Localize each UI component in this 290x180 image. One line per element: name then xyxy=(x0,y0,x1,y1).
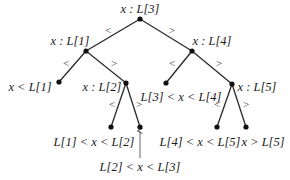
l1-label: x : L[1] xyxy=(50,34,90,48)
edge-label-l1-greater: > xyxy=(111,57,117,69)
leaf-label-lt-l1: x < L[1] xyxy=(7,80,51,94)
leaf-l3-l4 xyxy=(163,80,168,85)
edge-l1-l2 xyxy=(86,51,126,83)
leaf-lt-l1 xyxy=(56,79,61,84)
node-root xyxy=(137,16,142,21)
leaf-gt-l5 xyxy=(243,124,248,129)
leaf-label-l3-l4: L[3] < x < L[4] xyxy=(140,90,222,104)
l2-label: x : L[2] xyxy=(82,80,122,94)
node-l2 xyxy=(123,80,128,85)
edge-label-l4-greater: > xyxy=(216,57,222,69)
root-label: x : L[3] xyxy=(120,2,160,16)
edge-label-root-greater: > xyxy=(169,24,175,36)
leaf-label-l4-l5: L[4] < x < L[5] xyxy=(159,135,241,149)
leaf-label-l1-l2: L[1] < x < L[2] xyxy=(53,135,135,149)
edge-label-l4-less: < xyxy=(169,57,175,69)
l5-label: x : L[5] xyxy=(237,80,277,94)
node-l1 xyxy=(83,48,88,53)
edge-l4-l5 xyxy=(192,51,232,84)
edge-label-l2-greater: > xyxy=(136,98,142,110)
node-l4 xyxy=(189,48,194,53)
decision-tree-diagram: x : L[3] x : L[1] x : L[4] x : L[2] x : … xyxy=(0,0,290,180)
node-l5 xyxy=(229,81,234,86)
l4-label: x : L[4] xyxy=(192,34,232,48)
edge-label-l5-greater: > xyxy=(243,98,249,110)
leaf-l4-l5 xyxy=(214,124,219,129)
leaf-label-gt-l5: x > L[5] xyxy=(240,135,284,149)
leaf-l1-l2 xyxy=(108,124,113,129)
edge-label-l2-less: < xyxy=(109,98,115,110)
edge-root-l1 xyxy=(86,19,140,51)
edge-label-l1-less: < xyxy=(63,57,69,69)
leaf-l2-l3 xyxy=(137,124,142,129)
edge-label-root-less: < xyxy=(105,24,111,36)
edge-label-l5-less: < xyxy=(214,98,220,110)
edge-root-l4 xyxy=(140,19,192,51)
leaf-label-l2-l3: L[2] < x < L[3] xyxy=(99,160,181,174)
